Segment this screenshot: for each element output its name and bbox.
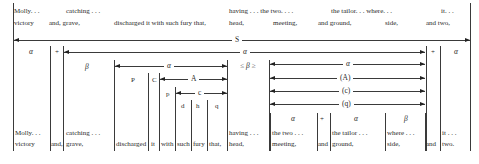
frame-right-border bbox=[470, 3, 471, 151]
label-P: P bbox=[131, 76, 135, 84]
bottom-word-head: head, bbox=[229, 140, 244, 148]
bottom-word-and-2: and bbox=[318, 140, 328, 148]
label-plus-left: + bbox=[55, 48, 59, 56]
label-d: d bbox=[181, 102, 185, 110]
top-word-head: head, bbox=[229, 19, 244, 27]
bottom-word-grave: grave, bbox=[66, 140, 83, 148]
divider-bottom-such-fury bbox=[191, 113, 192, 151]
bottom-word-it-dots: it . . . bbox=[442, 129, 456, 137]
bottom-word-such: such bbox=[177, 140, 190, 148]
bottom-word-catching: catching . . . bbox=[66, 129, 100, 137]
top-word-and-ground: and ground, bbox=[318, 19, 351, 27]
arrow-alpha-inner-label: α bbox=[164, 62, 174, 70]
divider-bottom-alpha-beta bbox=[385, 113, 386, 151]
divider-alpha-plus bbox=[50, 46, 51, 151]
bottom-word-discharged: discharged bbox=[116, 140, 146, 148]
top-word-molly: Molly. . . bbox=[14, 7, 39, 15]
bottom-label-alpha-1: α bbox=[291, 115, 295, 123]
top-word-discharged: discharged it with such fury that, bbox=[114, 19, 206, 27]
bottom-word-the-two: the two . . . bbox=[272, 129, 303, 137]
top-word-victory: victory bbox=[14, 19, 34, 27]
divider-bottom-and-side bbox=[425, 113, 426, 151]
divider-bottom-fury-that bbox=[207, 113, 208, 151]
arrow-A-paren-label: (A) bbox=[337, 74, 353, 82]
bottom-word-victory: victory bbox=[15, 140, 35, 148]
arrow-q-paren-label: (q) bbox=[339, 100, 354, 108]
divider-main-end bbox=[426, 46, 427, 151]
bottom-word-the-tailor: the tailor . . . bbox=[332, 129, 368, 137]
bottom-word-it: it bbox=[151, 140, 155, 148]
divider-bottom-discharged-it bbox=[148, 113, 149, 151]
arrow-c-label: c bbox=[195, 89, 204, 97]
bottom-word-having: having . . . bbox=[229, 129, 259, 137]
top-word-side: side, bbox=[385, 19, 398, 27]
bottom-label-alpha-2: α bbox=[354, 115, 358, 123]
divider-bottom-and-two bbox=[440, 113, 441, 151]
label-q: q bbox=[215, 102, 219, 110]
bottom-word-ground: ground, bbox=[332, 140, 354, 148]
arrow-A-label: A bbox=[188, 75, 199, 83]
label-h: h bbox=[196, 102, 200, 110]
top-word-catching: catching . . . bbox=[66, 7, 100, 15]
bottom-word-and: and, bbox=[51, 140, 63, 148]
bottom-word-that: that, bbox=[209, 140, 221, 148]
arrow-c-paren-label: (c) bbox=[339, 87, 353, 95]
top-word-meeting: meeting, bbox=[273, 19, 297, 27]
divider-plus-beta bbox=[63, 46, 64, 151]
label-plus-right: + bbox=[431, 48, 435, 56]
arrow-alpha-right-label: α bbox=[343, 60, 353, 68]
divider-bottom-grave-discharged bbox=[114, 113, 115, 151]
label-C: C bbox=[152, 76, 157, 84]
arrow-S-label: S bbox=[232, 36, 242, 44]
bottom-word-where: where . . . bbox=[387, 129, 415, 137]
bottom-word-and-3: and bbox=[426, 140, 436, 148]
top-word-tailor: the tailor. . . where. . . bbox=[331, 7, 392, 15]
divider-bottom-with-such bbox=[175, 113, 176, 151]
bottom-word-molly: Molly. . . bbox=[15, 129, 40, 137]
bottom-word-two: two. bbox=[442, 140, 454, 148]
divider-bottom-plus-alpha bbox=[330, 113, 331, 151]
divider-bottom-having-the bbox=[270, 113, 271, 151]
top-word-and-grave: and, grave, bbox=[49, 19, 80, 27]
divider-bottom-it-with bbox=[159, 113, 160, 151]
label-beta: β bbox=[85, 63, 89, 71]
bottom-label-plus: + bbox=[320, 115, 324, 123]
top-word-having: having . . . the two. . . . bbox=[229, 7, 293, 15]
bottom-word-fury: fury bbox=[193, 140, 205, 148]
label-beta-angle: ≤ β ≥ bbox=[240, 62, 256, 70]
top-word-and-two: and two, bbox=[426, 19, 450, 27]
top-word-it: it. . . bbox=[441, 7, 454, 15]
bottom-word-with: with bbox=[161, 140, 173, 148]
label-alpha-far-right: α bbox=[454, 48, 458, 56]
divider-bottom-that-head bbox=[227, 113, 228, 151]
arrow-alpha-main-label: α bbox=[240, 48, 250, 56]
label-alpha-left: α bbox=[29, 48, 33, 56]
bottom-label-beta: β bbox=[404, 115, 408, 123]
bottom-word-side: side, bbox=[387, 140, 400, 148]
label-p: p bbox=[166, 90, 170, 98]
bottom-word-meeting: meeting, bbox=[272, 140, 296, 148]
